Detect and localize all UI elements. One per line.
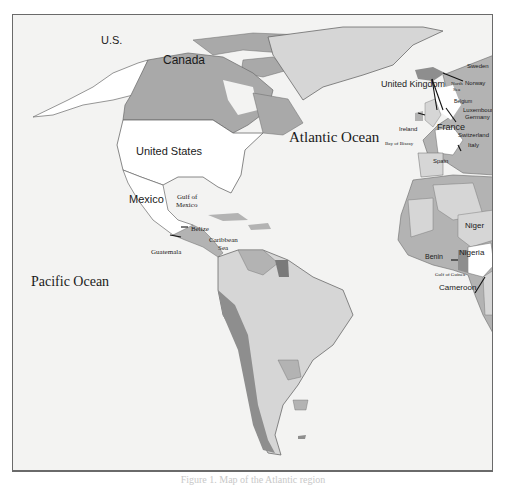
label-mexico: Mexico (129, 194, 164, 205)
label-switzerland: Switzerland (458, 132, 489, 138)
label-spain: Spain (433, 158, 448, 164)
label-cameroon: Cameroon (439, 284, 476, 292)
south-america-shape (218, 250, 353, 455)
label-nigeria: Nigeria (459, 249, 484, 257)
ireland-shape (415, 111, 423, 121)
label-ireland: Ireland (399, 126, 417, 132)
label-guatemala: Guatemala (151, 249, 181, 256)
label-italy: Italy (468, 142, 479, 148)
label-gulf-of-mexico-1: Gulf of (177, 194, 197, 201)
label-caribbean-sea-1: Caribbean (209, 237, 238, 244)
label-luxembourg: Luxembourg (463, 107, 493, 113)
label-norway: Norway (465, 80, 485, 86)
label-benin: Benin (425, 253, 443, 260)
label-canada: Canada (163, 54, 205, 66)
label-niger: Niger (465, 222, 484, 230)
label-germany: Germany (465, 114, 490, 120)
label-atlantic-ocean: Atlantic Ocean (289, 130, 379, 145)
label-north-sea-1: North (451, 81, 463, 86)
spain-shape (418, 153, 443, 177)
label-bay-of-biscay: Bay of Biscay (385, 141, 413, 146)
map-caption: Figure 1. Map of the Atlantic region (0, 474, 506, 485)
label-north-sea-2: Sea (453, 87, 460, 92)
greenland-shape (268, 27, 443, 100)
map-frame: U.S. Canada United States Atlantic Ocean… (12, 14, 493, 472)
label-pacific-ocean: Pacific Ocean (31, 275, 109, 289)
label-france: France (437, 123, 465, 132)
label-belgium: Belgium (454, 99, 472, 104)
label-belize: Belize (191, 226, 209, 233)
label-united-kingdom: United Kingdom (381, 80, 445, 89)
label-gulf-of-mexico-2: Mexico (176, 202, 197, 209)
label-caribbean-sea-2: Sea (218, 245, 228, 252)
label-sweden: Sweden (467, 63, 489, 69)
label-us-alaska: U.S. (101, 35, 122, 46)
label-united-states: United States (136, 146, 202, 157)
label-gulf-of-guinea: Gulf of Guinea (435, 272, 465, 277)
